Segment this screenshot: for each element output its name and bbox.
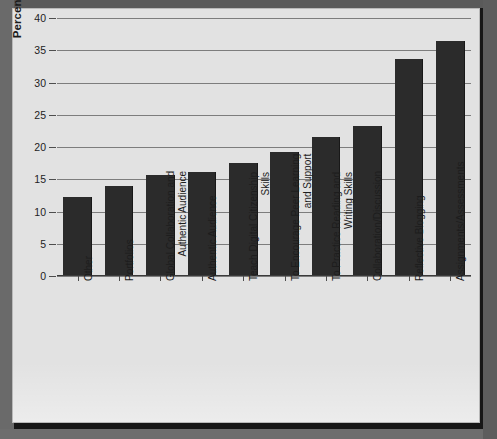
y-tick-label-15: 15	[34, 173, 46, 185]
y-tick-label-30: 30	[34, 77, 46, 89]
x-label-slot: Collaboration/Discussion	[348, 281, 388, 431]
y-tick-30	[49, 83, 56, 84]
y-axis-title: Percentage of Respondents	[11, 0, 29, 61]
x-axis-label-1: Portfolios	[124, 239, 136, 281]
y-tick-label-35: 35	[34, 44, 46, 56]
x-label-slot: Authentic Audience	[182, 281, 222, 431]
y-tick-label-25: 25	[34, 109, 46, 121]
x-axis-label-2: Global Collaboration and Authentic Audie…	[165, 171, 188, 281]
x-label-slot: Reflective Blogging	[389, 281, 429, 431]
left-gutter	[0, 0, 14, 439]
x-label-slot: Global Collaboration and Authentic Audie…	[141, 281, 181, 431]
y-tick-label-40: 40	[34, 12, 46, 24]
y-tick-10	[49, 212, 56, 213]
x-axis-label-8: Reflective Blogging	[414, 195, 426, 281]
x-label-slot: Portfolios	[99, 281, 139, 431]
y-tick-20	[49, 147, 56, 148]
y-tick-0	[49, 276, 56, 277]
x-axis-label-5: To Encourage Peer Learning and Support	[290, 154, 313, 281]
x-label-slot: To Encourage Peer Learning and Support	[265, 281, 305, 431]
y-tick-label-20: 20	[34, 141, 46, 153]
x-label-slot: To Practice Reading and Writing Skills	[306, 281, 346, 431]
x-label-slot: Assignments/Assessments	[430, 281, 470, 431]
x-axis-label-3: Authentic Audience	[207, 195, 219, 281]
y-tick-35	[49, 50, 56, 51]
x-axis-label-6: To Practice Reading and Writing Skills	[331, 172, 354, 281]
bar-slot	[99, 18, 139, 276]
x-label-slot: Teach Digital Citizenship Skills	[223, 281, 263, 431]
y-tick-5	[49, 244, 56, 245]
y-tick-15	[49, 179, 56, 180]
x-axis-label-0: Other	[83, 256, 95, 281]
y-tick-25	[49, 115, 56, 116]
y-tick-label-10: 10	[34, 206, 46, 218]
x-axis-labels: OtherPortfoliosGlobal Collaboration and …	[57, 281, 471, 431]
outer-frame: Percentage of Respondents 05101520253035…	[0, 0, 497, 439]
x-axis-label-7: Collaboration/Discussion	[372, 171, 384, 281]
bar-slot	[58, 18, 98, 276]
y-tick-label-0: 0	[40, 270, 46, 282]
y-tick-40	[49, 18, 56, 19]
x-axis-label-9: Assignments/Assessments	[455, 162, 467, 282]
x-label-slot: Other	[58, 281, 98, 431]
chart-panel: Percentage of Respondents 05101520253035…	[13, 9, 479, 422]
y-tick-label-5: 5	[40, 238, 46, 250]
x-axis-label-4: Teach Digital Citizenship Skills	[248, 172, 271, 281]
